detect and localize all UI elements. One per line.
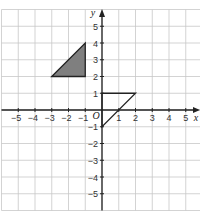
x-tick-label: −5 — [11, 113, 21, 123]
x-tick-label: −2 — [61, 113, 71, 123]
x-tick-label: 2 — [133, 113, 138, 123]
y-tick-label: 5 — [93, 22, 98, 32]
y-tick-label: −2 — [88, 139, 98, 149]
coordinate-grid: −5−4−3−2−11234554321−1−2−3−4−5xyO — [0, 0, 200, 215]
y-tick-label: −4 — [88, 173, 98, 183]
y-axis-arrow-icon — [99, 9, 105, 17]
x-tick-label: −3 — [45, 113, 55, 123]
x-tick-label: 4 — [166, 113, 171, 123]
tick-labels: −5−4−3−2−11234554321−1−2−3−4−5xyO — [11, 7, 199, 199]
x-tick-label: 5 — [183, 113, 188, 123]
y-tick-label: 2 — [93, 72, 98, 82]
x-tick-label: 3 — [150, 113, 155, 123]
y-tick-label: −5 — [88, 189, 98, 199]
axes — [2, 9, 201, 211]
x-tick-label: 1 — [116, 113, 121, 123]
y-tick-label: −3 — [88, 156, 98, 166]
x-axis-label: x — [193, 112, 199, 123]
y-tick-label: 1 — [93, 89, 98, 99]
origin-label: O — [92, 110, 99, 121]
y-tick-label: 4 — [93, 39, 98, 49]
x-tick-label: −4 — [28, 113, 38, 123]
y-axis-label: y — [90, 7, 96, 18]
y-tick-label: −1 — [88, 122, 98, 132]
y-tick-label: 3 — [93, 55, 98, 65]
